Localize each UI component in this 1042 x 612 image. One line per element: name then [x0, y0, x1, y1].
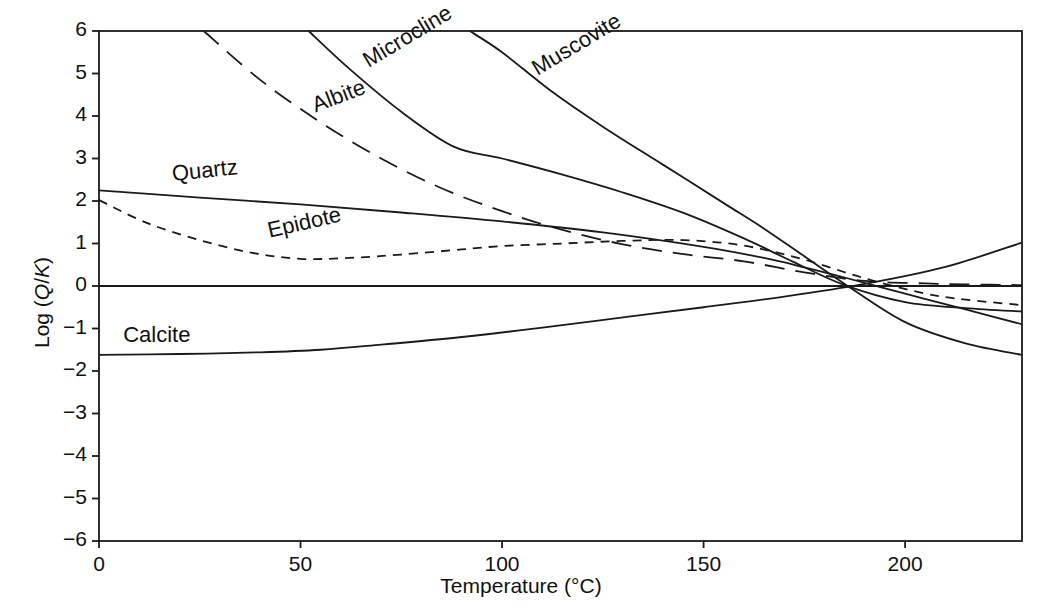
y-tick-label: 2 [75, 187, 87, 211]
axis-ticks [92, 31, 905, 548]
y-tick-label: −5 [63, 485, 87, 509]
x-axis-title: Temperature (°C) [0, 574, 1042, 598]
x-tick-label: 150 [664, 552, 744, 576]
y-tick-label: −2 [63, 357, 87, 381]
y-tick-label: 6 [75, 17, 87, 41]
y-axis-title-suffix: ) [30, 257, 53, 264]
y-axis-title-slash: / [30, 278, 53, 284]
series-label-calcite: Calcite [123, 322, 190, 348]
series-line-microcline [309, 31, 1022, 312]
chart-plot-area [0, 0, 1042, 612]
series-line-calcite [99, 243, 1022, 355]
y-axis-title-prefix: Log ( [30, 300, 53, 348]
series-lines [99, 31, 1022, 355]
series-line-quartz [99, 190, 1022, 324]
y-tick-label: −6 [63, 527, 87, 551]
y-axis-title: Log (Q/K) [30, 257, 54, 348]
x-tick-label: 50 [261, 552, 341, 576]
y-tick-label: 1 [75, 230, 87, 254]
y-tick-label: 4 [75, 102, 87, 126]
x-tick-label: 200 [865, 552, 945, 576]
y-tick-label: −3 [63, 400, 87, 424]
series-line-epidote [99, 200, 1022, 305]
y-tick-label: −1 [63, 315, 87, 339]
series-line-albite [204, 31, 1022, 285]
x-tick-label: 0 [59, 552, 139, 576]
y-axis-title-q: Q [30, 284, 53, 300]
chart-figure: 6543210−1−2−3−4−5−6 050100150200 Log (Q/… [0, 0, 1042, 612]
x-tick-label: 100 [462, 552, 542, 576]
y-axis-title-k: K [30, 264, 53, 278]
y-tick-label: 5 [75, 60, 87, 84]
y-tick-label: 0 [75, 272, 87, 296]
y-tick-label: 3 [75, 145, 87, 169]
y-tick-label: −4 [63, 442, 87, 466]
